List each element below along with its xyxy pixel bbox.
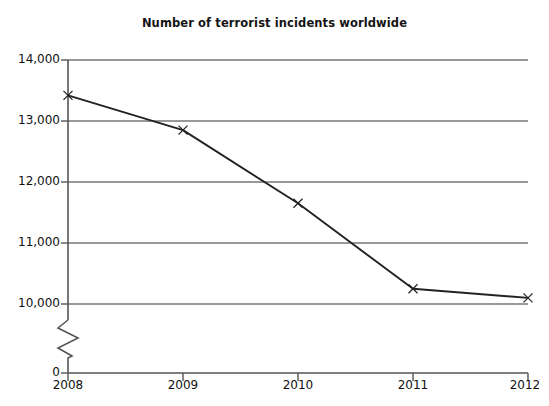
y-axis-ticks [61,60,68,373]
data-series-line [68,95,528,298]
x-axis-label-2011: 2011 [378,378,448,392]
chart-plot-area [0,0,549,406]
y-axis-label-10000: 10,000 [2,296,60,310]
y-axis-label-0: 0 [2,365,60,379]
data-point-markers [64,91,533,303]
gridlines [68,60,528,304]
y-axis [58,60,78,373]
y-axis-label-14000: 14,000 [2,52,60,66]
x-marker-icon [294,199,303,208]
x-axis-label-2012: 2012 [490,378,549,392]
y-axis-label-13000: 13,000 [2,113,60,127]
chart-container: Number of terrorist incidents worldwide [0,0,549,406]
x-axis-label-2009: 2009 [148,378,218,392]
x-axis-label-2010: 2010 [263,378,333,392]
x-axis-label-2008: 2008 [33,378,103,392]
axis-break-zigzag-icon [58,320,78,373]
y-axis-label-11000: 11,000 [2,235,60,249]
y-axis-label-12000: 12,000 [2,174,60,188]
